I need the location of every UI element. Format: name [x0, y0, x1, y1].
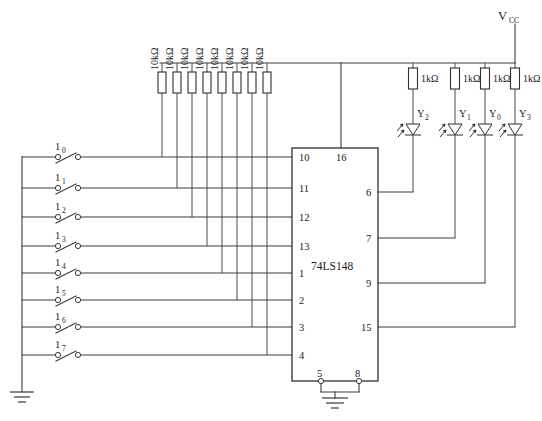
output-resistor-label-Y1: 1kΩ	[463, 73, 480, 84]
switch-label-I4: 1	[55, 257, 60, 268]
switch-label-I0: 1	[55, 141, 60, 152]
ic-74ls148[interactable]: 74LS148 10 11 12 13 1 2 3 4 6 7 9 15 16 …	[292, 63, 378, 381]
pullup-resistor-5: 10kΩ	[209, 48, 226, 273]
pullup-label-2: 10kΩ	[164, 48, 175, 70]
vcc-supply-group: V CC	[498, 9, 519, 63]
ic-pin-3: 3	[299, 322, 304, 333]
ic-pin-13: 13	[299, 241, 310, 252]
output-indicator-bank: 1kΩ Y 2 1kΩ Y 1	[378, 63, 540, 327]
switch-label-I1: 1	[55, 172, 60, 183]
switch-label-I5: 1	[55, 284, 60, 295]
switch-sub-I7: 7	[62, 344, 66, 353]
output-resistor-Y1	[451, 68, 460, 89]
led-label-Y2: Y	[417, 108, 425, 119]
pullup-resistor-4: 10kΩ	[194, 48, 211, 246]
pin5-terminal	[318, 378, 323, 383]
ic-pin-9: 9	[366, 278, 371, 289]
pullup-resistor-3: 10kΩ	[179, 48, 196, 217]
switch-label-I7: 1	[55, 339, 60, 350]
output-resistor-label-Y3: 1kΩ	[523, 73, 540, 84]
switch-label-I2: 1	[55, 201, 60, 212]
pullup-resistor-8: 10kΩ	[254, 48, 271, 355]
led-label-Y0: Y	[489, 108, 497, 119]
led-sub-Y1: 1	[467, 113, 471, 122]
chip-ground-group	[318, 378, 361, 408]
led-Y3	[508, 124, 522, 135]
pullup-resistor-7: 10kΩ	[239, 48, 256, 327]
circuit-diagram: V CC 10kΩ 10kΩ 10kΩ	[0, 0, 542, 421]
output-resistor-Y3	[511, 68, 520, 89]
switch-sub-I0: 0	[62, 146, 66, 155]
led-label-Y1: Y	[459, 108, 467, 119]
ic-part-label: 74LS148	[311, 260, 353, 272]
switch-sub-I6: 6	[62, 316, 66, 325]
led-label-Y3: Y	[519, 108, 527, 119]
input-switch-I7[interactable]: 1 7	[22, 339, 292, 361]
ic-pin-10: 10	[299, 152, 310, 163]
ic-pin-16: 16	[336, 152, 347, 163]
ic-pin-12: 12	[299, 212, 310, 223]
led-Y1	[448, 124, 462, 135]
pin8-terminal	[356, 378, 361, 383]
pullup-label-1: 10kΩ	[149, 48, 160, 70]
pullup-label-7: 10kΩ	[239, 48, 250, 70]
led-Y2	[406, 124, 420, 135]
switch-label-I6: 1	[55, 311, 60, 322]
pullup-label-5: 10kΩ	[209, 48, 220, 70]
switch-sub-I4: 4	[62, 262, 66, 271]
led-sub-Y3: 3	[527, 113, 531, 122]
output-column-Y2: 1kΩ Y 2	[378, 63, 438, 192]
switch-sub-I2: 2	[62, 206, 66, 215]
pullup-resistor-6: 10kΩ	[224, 48, 241, 300]
ic-pin-15: 15	[361, 322, 372, 333]
ic-pin-2: 2	[299, 295, 304, 306]
vcc-subscript: CC	[509, 16, 519, 25]
switch-label-I3: 1	[55, 230, 60, 241]
ic-pin-6: 6	[366, 187, 371, 198]
pullup-resistor-bank: 10kΩ 10kΩ 10kΩ 10kΩ 10kΩ	[149, 48, 271, 355]
led-Y0	[478, 124, 492, 135]
pullup-label-6: 10kΩ	[224, 48, 235, 70]
led-sub-Y2: 2	[425, 113, 429, 122]
led-sub-Y0: 0	[497, 113, 501, 122]
output-column-Y1: 1kΩ Y 1	[378, 63, 480, 238]
pullup-label-8: 10kΩ	[254, 48, 265, 70]
output-resistor-label-Y2: 1kΩ	[421, 73, 438, 84]
output-column-Y0: 1kΩ Y 0	[378, 63, 510, 283]
ic-pin-11: 11	[299, 183, 309, 194]
output-resistor-Y0	[481, 68, 490, 89]
output-column-Y3: 1kΩ Y 3	[378, 63, 540, 327]
output-resistor-Y2	[409, 68, 418, 89]
vcc-label: V	[498, 9, 507, 23]
pullup-label-4: 10kΩ	[194, 48, 205, 70]
switch-sub-I5: 5	[62, 289, 66, 298]
switch-sub-I3: 3	[62, 235, 66, 244]
switch-sub-I1: 1	[62, 177, 66, 186]
ic-pin-5: 5	[317, 368, 322, 379]
ic-pin-7: 7	[366, 233, 371, 244]
ic-pin-8: 8	[355, 368, 360, 379]
output-resistor-label-Y0: 1kΩ	[493, 73, 510, 84]
ic-pin-4: 4	[299, 350, 305, 361]
ic-pin-1: 1	[299, 268, 304, 279]
pullup-label-3: 10kΩ	[179, 48, 190, 70]
input-ground-group	[10, 157, 34, 402]
